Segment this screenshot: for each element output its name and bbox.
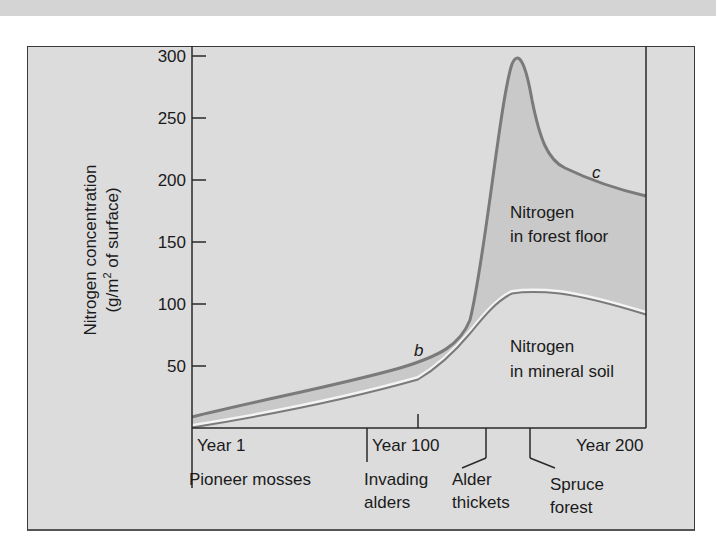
x-labels: Year 1 Year 100 Year 200 xyxy=(197,436,643,455)
svg-text:Year 100: Year 100 xyxy=(372,436,439,455)
svg-text:forest: forest xyxy=(550,498,593,517)
svg-text:200: 200 xyxy=(158,171,186,190)
svg-text:Year 1: Year 1 xyxy=(197,436,246,455)
svg-text:Year 200: Year 200 xyxy=(576,436,643,455)
stage-labels: Pioneer mosses Invading alders Alder thi… xyxy=(189,470,604,517)
svg-text:Pioneer mosses: Pioneer mosses xyxy=(189,470,311,489)
svg-text:250: 250 xyxy=(158,109,186,128)
svg-text:50: 50 xyxy=(167,357,186,376)
y-axis-label: Nitrogen concentration (g/m2 of surface) xyxy=(81,164,122,335)
svg-text:Nitrogen: Nitrogen xyxy=(510,337,574,356)
svg-text:Alder: Alder xyxy=(452,470,492,489)
svg-text:Invading: Invading xyxy=(364,470,428,489)
annotation-b: b xyxy=(414,341,423,360)
svg-text:(g/m2 of surface): (g/m2 of surface) xyxy=(101,187,122,312)
y-tick-labels: 300 250 200 150 100 50 xyxy=(158,47,186,376)
svg-text:Spruce: Spruce xyxy=(550,475,604,494)
nitrogen-chart: 300 250 200 150 100 50 Nitrogen concentr… xyxy=(0,0,716,560)
annotation-c: c xyxy=(592,163,601,182)
svg-text:300: 300 xyxy=(158,47,186,66)
svg-text:Nitrogen: Nitrogen xyxy=(510,203,574,222)
svg-text:in forest floor: in forest floor xyxy=(510,227,609,246)
y-ticks xyxy=(192,56,206,366)
svg-text:150: 150 xyxy=(158,233,186,252)
svg-text:100: 100 xyxy=(158,295,186,314)
svg-text:alders: alders xyxy=(364,493,410,512)
svg-text:in mineral soil: in mineral soil xyxy=(510,362,614,381)
svg-text:Nitrogen concentration: Nitrogen concentration xyxy=(81,164,100,335)
svg-text:thickets: thickets xyxy=(452,493,510,512)
